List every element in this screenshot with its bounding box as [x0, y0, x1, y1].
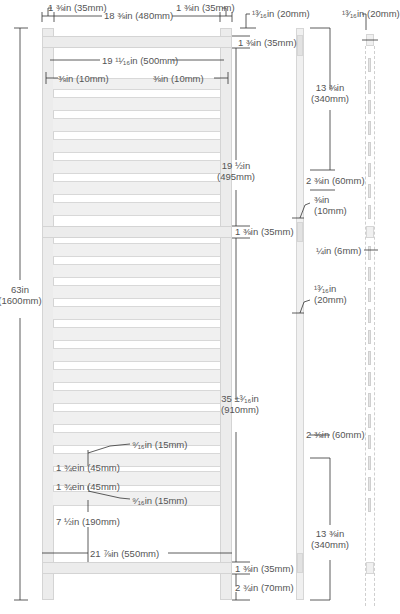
rail-depth-inches: ¹³⁄₁₆in [314, 283, 347, 294]
groove-inches: ⅜in [314, 194, 347, 205]
side-upper-span-mm: (340mm) [311, 93, 349, 104]
groove-mm: (10mm) [314, 205, 347, 216]
foot-label: 2 ¾in (70mm) [235, 582, 294, 593]
rail-depth-label: ¹³⁄₁₆in (20mm) [314, 283, 347, 305]
total-height-mm: (1600mm) [0, 295, 42, 306]
post-width-left-label: 1 ⅜in (35mm) [48, 2, 107, 13]
bottom-rail-label: 1 ⅜in (35mm) [235, 563, 294, 574]
slat-overhang-right-label: ⅜in (10mm) [153, 73, 204, 84]
side-lower-slot-label: 2 ⅜in (60mm) [306, 429, 365, 440]
upper-section-label: 19 ½in (495mm) [217, 160, 255, 182]
side-lower-span-label: 13 ⅜in (340mm) [311, 528, 349, 550]
upper-section-mm: (495mm) [217, 171, 255, 182]
bottom-gap-label: 7 ½in (190mm) [56, 516, 120, 527]
lower-section-label: 35 ±³⁄₁₆in (910mm) [221, 393, 259, 415]
slat-depth-label: ¹³⁄₁₆in (20mm) [342, 8, 400, 19]
lower-section-inches: 35 ±³⁄₁₆in [221, 393, 259, 404]
slat-height-2-label: 1 ¾ein (45mm) [56, 481, 120, 492]
total-height-inches: 63in [0, 284, 42, 295]
side-upper-span-inches: 13 ⅜in [311, 82, 349, 93]
middle-rail-label: 1 ⅜in (35mm) [235, 226, 294, 237]
inner-width-label: 18 ⅜in (480mm) [104, 10, 173, 21]
post-width-right-label: 1 ⅜in (35mm) [176, 2, 235, 13]
side-upper-span-label: 13 ⅜in (340mm) [311, 82, 349, 104]
slat-gap-top-label: ⁹⁄₁₆in (15mm) [132, 439, 187, 450]
slat-overhang-left-label: ⅜in (10mm) [58, 73, 109, 84]
lower-section-mm: (910mm) [221, 404, 259, 415]
post-depth-label: ¹³⁄₁₆in (20mm) [252, 8, 310, 19]
slat-gap-bottom-label: ⁹⁄₁₆in (15mm) [132, 495, 187, 506]
overall-width-label: 21 ⅞in (550mm) [90, 548, 159, 559]
slat-length-label: 19 ¹¹⁄₁₆in (500mm) [102, 55, 178, 66]
total-height-label: 63in (1600mm) [0, 284, 42, 306]
slat-height-1-label: 1 ¾ein (45mm) [56, 462, 120, 473]
slat-thickness-label: ¼in (6mm) [316, 245, 361, 256]
rail-depth-mm: (20mm) [314, 294, 347, 305]
side-lower-span-mm: (340mm) [311, 539, 349, 550]
side-upper-slot-label: 2 ⅜in (60mm) [306, 175, 365, 186]
side-lower-span-inches: 13 ⅜in [311, 528, 349, 539]
groove-label: ⅜in (10mm) [314, 194, 347, 216]
upper-section-inches: 19 ½in [217, 160, 255, 171]
top-rail-label: 1 ⅜in (35mm) [238, 37, 297, 48]
